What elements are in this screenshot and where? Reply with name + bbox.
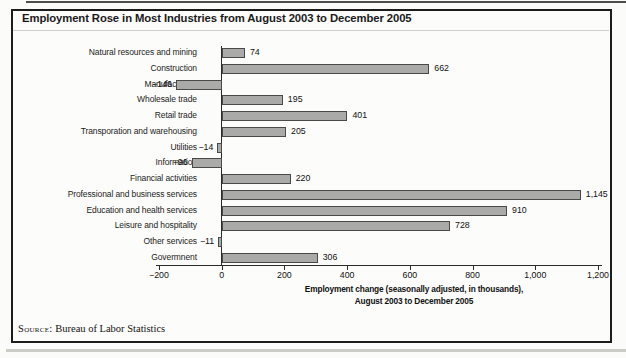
value-label: −96: [173, 155, 188, 171]
bar-rows: Natural resources and mining74Constructi…: [0, 45, 626, 266]
x-axis-tick-label: 800: [453, 270, 493, 280]
bar-row: Transporation and warehousing205: [0, 124, 626, 140]
bar: [192, 158, 222, 168]
x-axis-title: Employment change (seasonally adjusted, …: [239, 284, 589, 307]
source-note: Source: Bureau of Labor Statistics: [18, 323, 165, 334]
value-label: 306: [323, 250, 338, 266]
value-label: 74: [250, 45, 260, 61]
page-container: Employment Rose in Most Industries from …: [0, 0, 626, 358]
bar-row: Manufacturing−146: [0, 77, 626, 93]
bar: [222, 174, 291, 184]
category-label: Govermnent: [0, 250, 197, 266]
category-label: Natural resources and mining: [0, 45, 197, 61]
bar: [222, 127, 286, 137]
bar-row: Other services−11: [0, 234, 626, 250]
bar-row: Retail trade401: [0, 108, 626, 124]
value-label: −11: [200, 234, 214, 250]
value-label: 195: [288, 92, 303, 108]
bar: [217, 143, 221, 153]
category-label: Utilities: [0, 140, 197, 156]
bar-row: Education and health services910: [0, 203, 626, 219]
bar-row: Utilities−14: [0, 140, 626, 156]
bar: [222, 111, 348, 121]
category-label: Professional and business services: [0, 187, 197, 203]
value-label: 662: [434, 61, 449, 77]
bar-row: Financial activities220: [0, 171, 626, 187]
bar: [222, 221, 450, 231]
value-label: 1,145: [586, 187, 608, 203]
bar: [218, 237, 221, 247]
value-label: 401: [352, 108, 367, 124]
bar-row: Professional and business services1,145: [0, 187, 626, 203]
bar: [222, 48, 245, 58]
bar: [222, 64, 430, 74]
source-label: Source:: [18, 323, 53, 334]
value-label: 205: [291, 124, 306, 140]
x-axis-tick-label: 400: [327, 270, 367, 280]
category-label: Information: [0, 155, 197, 171]
source-text: Bureau of Labor Statistics: [55, 323, 165, 334]
bar-row: Wholesale trade195: [0, 92, 626, 108]
bar-row: Govermnent306: [0, 250, 626, 266]
category-label: Financial activities: [0, 171, 197, 187]
x-axis-tick-label: 200: [264, 270, 304, 280]
category-label: Education and health services: [0, 203, 197, 219]
category-label: Other services: [0, 234, 197, 250]
bar: [176, 80, 222, 90]
title-rule: [13, 30, 609, 31]
bar: [222, 95, 283, 105]
x-axis-tick-label: 1,200: [578, 270, 618, 280]
page-top-rule: [26, 1, 626, 3]
x-axis-tick-label: 600: [390, 270, 430, 280]
category-label: Wholesale trade: [0, 92, 197, 108]
value-label: −14: [198, 140, 213, 156]
x-axis-tick-label: −200: [139, 270, 179, 280]
chart-title: Employment Rose in Most Industries from …: [22, 12, 412, 24]
page-bottom-edge: [6, 349, 626, 352]
bar-row: Information−96: [0, 155, 626, 171]
x-axis-title-line1: Employment change (seasonally adjusted, …: [239, 284, 589, 296]
bar-row: Leisure and hospitality728: [0, 218, 626, 234]
bar: [222, 190, 581, 200]
category-label: Transporation and warehousing: [0, 124, 197, 140]
value-label: 728: [455, 218, 470, 234]
value-label: 910: [512, 203, 527, 219]
x-axis-title-line2: August 2003 to December 2005: [239, 296, 589, 308]
bar: [222, 206, 507, 216]
x-axis-tick-label: 1,000: [515, 270, 555, 280]
x-axis-tick-label: 0: [202, 270, 242, 280]
category-label: Retail trade: [0, 108, 197, 124]
category-label: Leisure and hospitality: [0, 218, 197, 234]
bar-row: Natural resources and mining74: [0, 45, 626, 61]
category-label: Construction: [0, 61, 197, 77]
bar-row: Construction662: [0, 61, 626, 77]
value-label: 220: [296, 171, 311, 187]
value-label: −146: [152, 77, 172, 93]
bar: [222, 253, 318, 263]
